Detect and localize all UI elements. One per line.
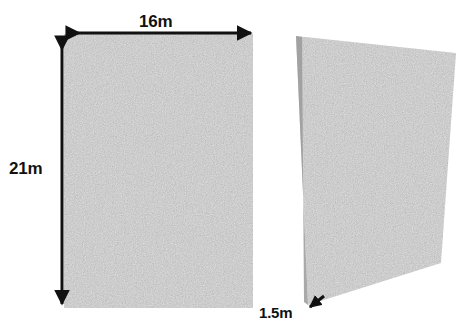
- front-face-fill: [64, 34, 253, 308]
- perspective-slab-face: [296, 36, 456, 305]
- width-dimension-label: 16m: [139, 13, 172, 30]
- slab-diagram: [0, 0, 475, 334]
- front-face-rectangle: [64, 34, 253, 308]
- figure-root: 16m 21m 1.5m: [0, 0, 475, 334]
- height-dimension-label: 21m: [9, 160, 42, 177]
- depth-dimension-label: 1.5m: [259, 305, 292, 320]
- slab-face-fill: [296, 36, 456, 305]
